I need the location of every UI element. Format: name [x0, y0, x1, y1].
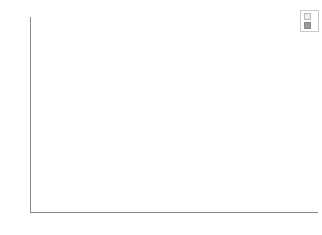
- plot-area: [30, 17, 318, 213]
- legend-swatch-private-forest: [304, 22, 311, 29]
- bar-series-group: [31, 17, 318, 212]
- legend-item-private-forest: [304, 22, 314, 29]
- legend-swatch-national-forest: [304, 13, 311, 20]
- forest-volume-chart-figure: [0, 0, 322, 235]
- legend-item-national-forest: [304, 13, 314, 20]
- x-axis-line: [30, 212, 318, 213]
- chart-legend: [300, 10, 319, 32]
